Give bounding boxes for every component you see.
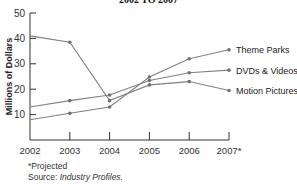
x-tick-label: 2007* bbox=[217, 145, 242, 156]
x-tick-label: 2004 bbox=[99, 145, 120, 156]
data-point bbox=[108, 99, 112, 103]
data-point bbox=[187, 57, 191, 61]
data-point bbox=[227, 89, 231, 93]
data-point bbox=[148, 83, 152, 87]
data-point bbox=[108, 93, 112, 97]
data-point bbox=[227, 48, 231, 52]
series-label: Theme Parks bbox=[236, 45, 290, 55]
x-tick-label: 2003 bbox=[59, 145, 80, 156]
series-line bbox=[30, 50, 229, 120]
data-point bbox=[187, 80, 191, 84]
line-chart: 1020304050200220032004200520062007*Milli… bbox=[0, 0, 297, 186]
data-point bbox=[148, 75, 152, 79]
x-tick-label: 2002 bbox=[19, 145, 40, 156]
y-tick-label: 30 bbox=[14, 58, 26, 69]
data-point bbox=[68, 112, 72, 116]
series-label: Motion Pictures bbox=[236, 86, 297, 96]
data-point bbox=[68, 40, 72, 44]
x-tick-label: 2006 bbox=[179, 145, 200, 156]
source-value: Industry Profiles. bbox=[60, 172, 123, 182]
y-tick-label: 20 bbox=[14, 84, 26, 95]
series-label: DVDs & Videos bbox=[236, 66, 297, 76]
data-point bbox=[108, 105, 112, 109]
data-point bbox=[227, 68, 231, 72]
footnote-source: Source: Industry Profiles. bbox=[28, 172, 123, 182]
y-tick-label: 10 bbox=[14, 109, 26, 120]
y-tick-label: 40 bbox=[14, 33, 26, 44]
y-axis-label: Millions of Dollars bbox=[4, 38, 14, 116]
series-line bbox=[30, 70, 229, 107]
data-point bbox=[148, 79, 152, 83]
x-tick-label: 2005 bbox=[139, 145, 160, 156]
footnote-projected: *Projected bbox=[28, 161, 67, 171]
data-point bbox=[187, 71, 191, 75]
series-line bbox=[30, 36, 229, 101]
source-label: Source: bbox=[28, 172, 57, 182]
y-tick-label: 50 bbox=[14, 8, 26, 19]
data-point bbox=[68, 99, 72, 103]
